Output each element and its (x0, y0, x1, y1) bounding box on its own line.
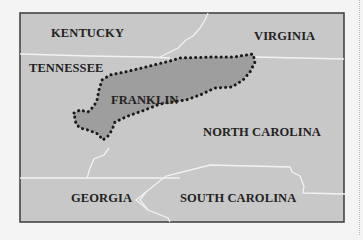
label-virginia: VIRGINIA (254, 29, 315, 44)
label-georgia: GEORGIA (71, 191, 132, 206)
label-south-carolina: SOUTH CAROLINA (180, 191, 296, 206)
label-franklin: FRANKLIN (111, 93, 178, 108)
label-north-carolina: NORTH CAROLINA (203, 125, 321, 140)
label-kentucky: KENTUCKY (51, 26, 124, 41)
label-tennessee: TENNESSEE (29, 61, 104, 76)
